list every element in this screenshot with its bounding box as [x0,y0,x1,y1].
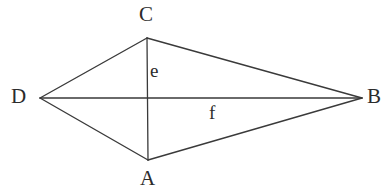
edge-a-d [40,98,148,160]
vertex-label-a: A [140,168,155,189]
vertex-label-d: D [11,86,26,107]
edge-d-c [40,38,147,98]
edge-b-a [148,98,362,160]
vertex-label-b: B [367,86,381,107]
diagonal-label-e: e [150,61,158,80]
diagonal-c-a [147,38,148,160]
edge-c-b [147,38,362,98]
kite-diagram-canvas [0,0,388,193]
diagonal-label-f: f [209,103,215,122]
geometry-figure: C A D B e f [0,0,388,193]
vertex-label-c: C [139,4,153,25]
